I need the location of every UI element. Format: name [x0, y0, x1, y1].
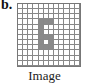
caption: Image [0, 68, 89, 84]
grid-cell [75, 61, 80, 66]
panel-label: b. [1, 0, 12, 13]
pixel-grid-image [17, 3, 81, 67]
